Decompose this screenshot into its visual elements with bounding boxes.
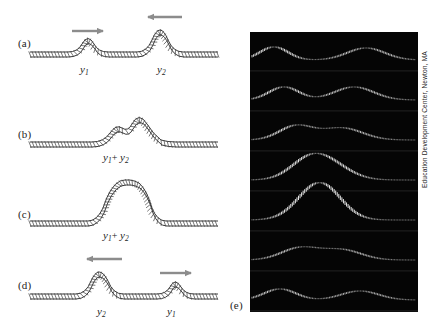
rope-panel-c (29, 180, 218, 227)
rope-panel-b (29, 117, 218, 147)
panel-label-b: (b) (18, 128, 31, 140)
rope-panel-a (29, 30, 219, 58)
figure-superposition-of-pulses: (a) (b) (c) (d) (e) y1 y2 y1+ y2 y1+ y2 … (0, 0, 448, 328)
wave-label-sum-panel-c: y1+ y2 (103, 229, 129, 241)
wave-label-y1-panel-a: y1 (80, 63, 89, 75)
panel-label-e: (e) (230, 299, 243, 311)
strobe-frames (250, 32, 418, 312)
wave-label-y2-panel-d: y2 (97, 305, 106, 317)
rope-panel-d (29, 272, 218, 300)
panel-label-d: (d) (18, 279, 31, 291)
strobe-photograph-panel-e (250, 32, 418, 312)
photo-background (250, 32, 418, 312)
wave-label-y1-panel-d: y1 (167, 305, 176, 317)
wave-label-sum-panel-b: y1+ y2 (103, 151, 129, 163)
panel-label-c: (c) (18, 208, 31, 220)
panel-label-a: (a) (18, 37, 31, 49)
wave-label-y2-panel-a: y2 (157, 63, 166, 75)
photo-credit: Education Development Center, Newton, MA (421, 58, 428, 188)
